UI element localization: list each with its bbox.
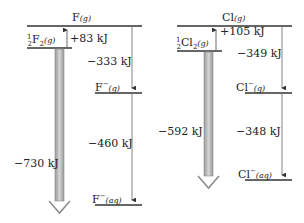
- energy-F-electron-affinity: −333 kJ: [87, 56, 132, 68]
- label-Cl-g: Cl(g): [222, 12, 245, 25]
- energy-Cl-atomization: +105 kJ: [220, 26, 265, 38]
- overall-arrow-Cl-head: [198, 176, 219, 188]
- overall-arrow-Cl-shaft: [204, 52, 213, 176]
- label-F-g: F(g): [72, 12, 91, 25]
- overall-arrow-F-head: [49, 201, 70, 213]
- label-half-Cl2-g: 12Cl2(g): [176, 37, 209, 53]
- energy-F-hydration: −460 kJ: [88, 138, 133, 150]
- label-F-minus-aq: F−(aq): [92, 190, 122, 207]
- energy-Cl-overall: −592 kJ: [158, 126, 203, 138]
- energy-F-atomization: +83 kJ: [70, 33, 108, 45]
- label-F-minus-g: F−(g): [95, 78, 120, 95]
- energy-Cl-hydration: −348 kJ: [236, 126, 281, 138]
- energy-Cl-electron-affinity: −349 kJ: [237, 48, 282, 60]
- energy-F-overall: −730 kJ: [14, 158, 59, 170]
- overall-arrow-F-shaft: [55, 49, 64, 201]
- label-Cl-minus-g: Cl−(g): [236, 78, 265, 95]
- label-Cl-minus-aq: Cl−(aq): [238, 165, 272, 182]
- label-half-F2-g: 12F2(g): [27, 34, 55, 50]
